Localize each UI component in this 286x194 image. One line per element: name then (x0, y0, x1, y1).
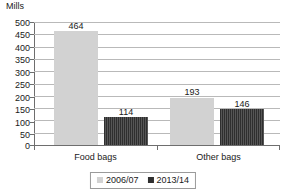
x-axis-category-label-other-bags: Other bags (157, 152, 280, 163)
x-axis-tick (157, 145, 158, 150)
legend-swatch-icon (148, 177, 154, 183)
legend-swatch-icon (97, 177, 103, 183)
y-tick-label: 150 (0, 106, 30, 115)
y-tick-label: 400 (0, 44, 30, 53)
bar-value-label: 464 (54, 22, 98, 31)
y-tick-label: 100 (0, 119, 30, 128)
y-tick-label: 300 (0, 69, 30, 78)
bar-chart: Mills 500 450 400 350 300 250 200 150 10… (0, 0, 286, 194)
bar-food-bags-2006-07 (54, 31, 98, 145)
y-tick-label: 450 (0, 31, 30, 40)
bar-other-bags-2006-07 (170, 98, 214, 146)
chart-legend: 2006/07 2013/14 (90, 172, 196, 189)
x-axis-category-label-food-bags: Food bags (34, 152, 157, 163)
legend-item-2006-07: 2006/07 (97, 175, 139, 185)
y-tick-label: 200 (0, 94, 30, 103)
bar-other-bags-2013-14 (220, 109, 264, 145)
bar-food-bags-2013-14 (104, 117, 148, 145)
y-axis-tick-labels: 500 450 400 350 300 250 200 150 100 50 0 (0, 0, 30, 194)
y-tick-label: 350 (0, 56, 30, 65)
x-axis-tick (34, 145, 35, 150)
y-tick-label: 0 (0, 142, 30, 151)
bar-value-label: 114 (104, 108, 148, 117)
bar-value-label: 146 (220, 100, 264, 109)
plot-area: 464 114 193 146 (34, 22, 280, 145)
x-axis-tick (279, 145, 280, 150)
y-tick-label: 250 (0, 81, 30, 90)
legend-label: 2013/14 (157, 175, 190, 185)
bar-value-label: 193 (170, 88, 214, 97)
legend-item-2013-14: 2013/14 (148, 175, 190, 185)
legend-label: 2006/07 (106, 175, 139, 185)
y-tick-label: 500 (0, 19, 30, 28)
y-tick-label: 50 (0, 131, 30, 140)
